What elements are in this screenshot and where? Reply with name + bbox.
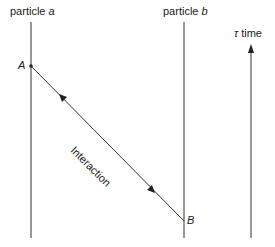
interaction-line bbox=[31, 66, 184, 221]
arrow-toward-b-icon bbox=[147, 185, 155, 193]
time-arrow-head-icon bbox=[248, 44, 254, 53]
spacetime-diagram bbox=[0, 0, 275, 247]
